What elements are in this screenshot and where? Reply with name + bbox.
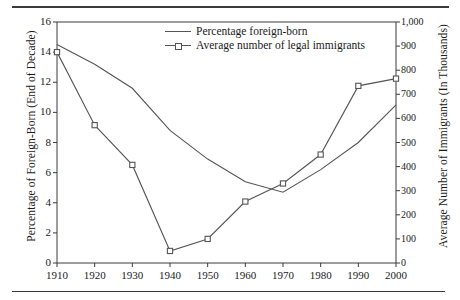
series-marker	[393, 76, 398, 81]
series-marker	[356, 83, 361, 88]
series-marker	[167, 248, 172, 253]
series-marker	[130, 162, 135, 167]
chart-legend: Percentage foreign-bornAverage number of…	[165, 24, 365, 52]
series-marker	[54, 50, 59, 55]
legend-swatch-icon	[165, 25, 191, 37]
legend-item-2: Average number of legal immigrants	[165, 38, 365, 52]
series-marker	[205, 236, 210, 241]
series-line-1	[57, 45, 396, 193]
series-marker	[280, 181, 285, 186]
legend-label: Percentage foreign-born	[196, 24, 307, 38]
series-marker	[92, 123, 97, 128]
series-marker	[243, 199, 248, 204]
legend-swatch-icon	[165, 39, 191, 51]
legend-label: Average number of legal immigrants	[196, 38, 365, 52]
chart-figure: Percentage of Foreign-Born (End of Decad…	[0, 0, 460, 300]
legend-item-1: Percentage foreign-born	[165, 24, 365, 38]
series-marker	[318, 152, 323, 157]
